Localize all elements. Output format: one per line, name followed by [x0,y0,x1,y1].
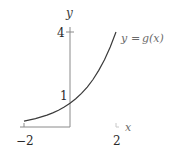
y-tick-label-1: 1 [60,89,68,103]
x-tick-label-2: 2 [113,134,121,148]
plot-canvas: y 4 1 −2 2 x y = g(x) [0,0,171,155]
y-tick-label-4: 4 [57,26,65,40]
x-axis-label: x [125,121,132,134]
curve-label-equals: = [131,32,140,45]
curve-label-g: g(x) [142,32,164,45]
x-tick-label-minus-2: −2 [16,134,34,148]
y-axis-label: y [65,6,73,20]
curve-label-y: y [120,32,128,45]
